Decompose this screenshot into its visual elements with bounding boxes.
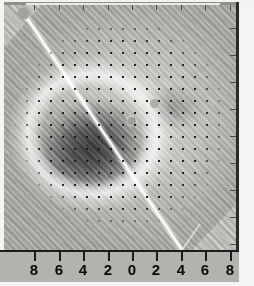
top-tick-1	[59, 5, 60, 10]
x-tick-label-3: 2	[104, 260, 112, 280]
y-tick-2	[230, 82, 236, 83]
top-tick-6	[181, 5, 182, 10]
x-tick-label-5: 2	[152, 260, 160, 280]
y-tick-3	[230, 109, 236, 110]
corner-margin	[239, 250, 254, 286]
x-tick-label-4: 0	[128, 260, 136, 280]
top-tick-0	[34, 5, 35, 10]
x-tick-label-0: 8	[30, 260, 38, 280]
x-tick-label-6: 4	[177, 260, 185, 280]
y-tick-7	[230, 217, 236, 218]
sample-point-grid	[4, 4, 238, 250]
y-tick-0	[230, 28, 236, 29]
bottom-margin	[0, 282, 254, 286]
top-tick-7	[205, 5, 206, 10]
top-tick-5	[156, 5, 157, 10]
plot-area[interactable]	[4, 4, 238, 250]
y-tick-8	[230, 244, 236, 245]
x-tick-label-8: 8	[226, 260, 234, 280]
cut-line-start-marker	[18, 8, 29, 19]
figure-container: 864202468	[0, 0, 254, 286]
top-tick-2	[83, 5, 84, 10]
axis-bottom[interactable]: 864202468	[0, 250, 246, 286]
x-tick-label-7: 6	[201, 260, 209, 280]
x-tick-label-2: 4	[79, 260, 87, 280]
y-tick-4	[230, 136, 236, 137]
top-tick-4	[132, 5, 133, 10]
right-margin	[239, 4, 254, 252]
top-tick-8	[230, 5, 231, 10]
y-tick-1	[230, 55, 236, 56]
y-tick-6	[230, 190, 236, 191]
x-tick-label-1: 6	[55, 260, 63, 280]
plot-frame-top-highlight	[26, 3, 220, 5]
y-tick-5	[230, 163, 236, 164]
top-tick-3	[108, 5, 109, 10]
